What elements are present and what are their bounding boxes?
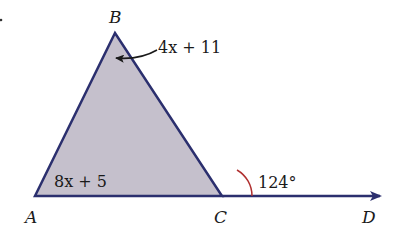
point-label-a: A bbox=[23, 207, 37, 227]
exterior-angle-arc bbox=[237, 170, 252, 196]
point-label-b: B bbox=[108, 7, 122, 27]
point-label-d: D bbox=[361, 207, 376, 227]
angle-b-expression: 4x + 11 bbox=[158, 38, 221, 57]
triangle-exterior-angle-diagram: B A C D 4x + 11 8x + 5 124° bbox=[0, 0, 397, 238]
point-label-c: C bbox=[214, 207, 227, 227]
stray-dot bbox=[0, 19, 2, 22]
exterior-angle-value: 124° bbox=[258, 173, 297, 192]
diagram-svg: B A C D 4x + 11 8x + 5 124° bbox=[0, 0, 397, 238]
angle-a-expression: 8x + 5 bbox=[54, 172, 107, 191]
